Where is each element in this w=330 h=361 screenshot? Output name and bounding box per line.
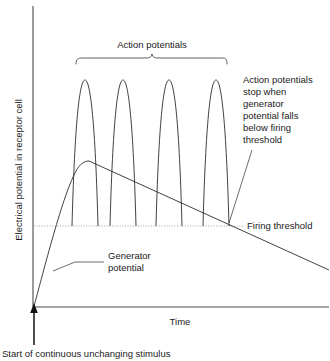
- action-potentials-bracket: [76, 54, 227, 64]
- stimulus-caption: Start of continuous unchanging stimulus: [2, 348, 171, 359]
- spike-1: [72, 80, 98, 226]
- generator-label-leader-line: [53, 262, 75, 271]
- spike-3: [156, 80, 182, 226]
- bracket-label: Action potentials: [117, 39, 187, 50]
- generator-potential-curve: [34, 161, 329, 306]
- spike-2: [110, 80, 136, 226]
- stop-note-line-5: below firing: [243, 122, 291, 133]
- generator-potential-callout: Generator potential: [53, 250, 151, 273]
- stimulus-onset-marker: [30, 303, 38, 345]
- stop-note-line-3: generator: [243, 98, 284, 109]
- generator-label-line-1: Generator: [108, 250, 151, 261]
- stop-note-line-4: potential falls: [243, 110, 299, 121]
- firing-threshold-label: Firing threshold: [247, 220, 312, 231]
- stop-note-line-6: threshold: [243, 134, 282, 145]
- bracket-path: [76, 54, 227, 64]
- spike-4: [203, 80, 229, 226]
- stop-note-group: Action potentials stop when generator po…: [229, 74, 313, 223]
- figure-canvas: Action potentials Action potentials stop…: [0, 0, 330, 361]
- stop-note-line-1: Action potentials: [243, 74, 313, 85]
- stop-note-leader-line: [229, 150, 252, 223]
- stimulus-arrow-head: [30, 303, 38, 313]
- y-axis-label: Electrical potential in receptor cell: [13, 99, 24, 241]
- action-potential-figure: Action potentials Action potentials stop…: [0, 0, 330, 361]
- x-axis-label: Time: [170, 316, 191, 327]
- stop-note-line-2: stop when: [243, 86, 286, 97]
- generator-label-line-2: potential: [108, 262, 144, 273]
- action-potential-spikes: [72, 80, 229, 226]
